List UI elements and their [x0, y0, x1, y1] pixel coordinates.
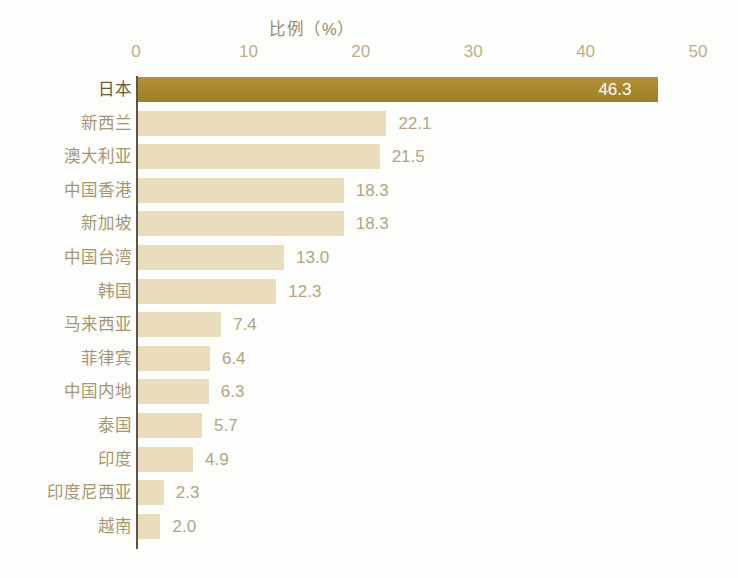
bar-value-label: 22.1	[398, 111, 431, 136]
bar-row: 中国香港18.3	[0, 178, 738, 212]
bar-value-label: 46.3	[598, 77, 631, 102]
category-label: 新西兰	[81, 111, 132, 136]
bar-row: 新西兰22.1	[0, 111, 738, 145]
category-label: 韩国	[98, 279, 132, 304]
category-label: 印度尼西亚	[47, 480, 132, 505]
category-label: 马来西亚	[64, 312, 132, 337]
bar-row: 新加坡18.3	[0, 211, 738, 245]
bar-row: 韩国12.3	[0, 279, 738, 313]
bar-row: 菲律宾6.4	[0, 346, 738, 380]
bar	[138, 514, 160, 539]
bar-chart: 比例（%） 01020304050 日本46.3新西兰22.1澳大利亚21.5中…	[0, 0, 738, 578]
bar-value-label: 6.4	[222, 346, 246, 371]
category-label: 泰国	[98, 413, 132, 438]
bar-value-label: 12.3	[288, 279, 321, 304]
category-label: 澳大利亚	[64, 144, 132, 169]
category-label: 印度	[98, 447, 132, 472]
bar-value-label: 13.0	[296, 245, 329, 270]
bar-row: 日本46.3	[0, 77, 738, 111]
bar-value-label: 7.4	[233, 312, 257, 337]
category-label: 菲律宾	[81, 346, 132, 371]
bar	[138, 413, 202, 438]
bar-row: 中国台湾13.0	[0, 245, 738, 279]
bar	[138, 447, 193, 472]
bar-value-label: 2.0	[172, 514, 196, 539]
bar-value-label: 5.7	[214, 413, 238, 438]
bar	[138, 144, 380, 169]
category-label: 中国台湾	[64, 245, 132, 270]
bar-row: 澳大利亚21.5	[0, 144, 738, 178]
bar	[138, 346, 210, 371]
bar-value-label: 4.9	[205, 447, 229, 472]
bar-value-label: 18.3	[356, 211, 389, 236]
bar-row: 泰国5.7	[0, 413, 738, 447]
bar-row: 印度4.9	[0, 447, 738, 481]
category-label: 新加坡	[81, 211, 132, 236]
bar-row: 马来西亚7.4	[0, 312, 738, 346]
category-label: 中国内地	[64, 379, 132, 404]
bar	[138, 480, 164, 505]
bar	[138, 312, 221, 337]
bar	[138, 211, 344, 236]
category-label: 中国香港	[64, 178, 132, 203]
bar	[138, 111, 386, 136]
bar-value-label: 21.5	[392, 144, 425, 169]
bar-value-label: 6.3	[221, 379, 245, 404]
bar	[138, 379, 209, 404]
bar	[138, 279, 276, 304]
bar	[138, 245, 284, 270]
bar-row: 中国内地6.3	[0, 379, 738, 413]
category-label: 日本	[98, 77, 132, 102]
plot-area: 日本46.3新西兰22.1澳大利亚21.5中国香港18.3新加坡18.3中国台湾…	[0, 0, 738, 578]
bar-value-label: 2.3	[176, 480, 200, 505]
bar-row: 越南2.0	[0, 514, 738, 548]
bar-row: 印度尼西亚2.3	[0, 480, 738, 514]
bar	[138, 77, 658, 102]
bar-value-label: 18.3	[356, 178, 389, 203]
category-label: 越南	[98, 514, 132, 539]
bar	[138, 178, 344, 203]
